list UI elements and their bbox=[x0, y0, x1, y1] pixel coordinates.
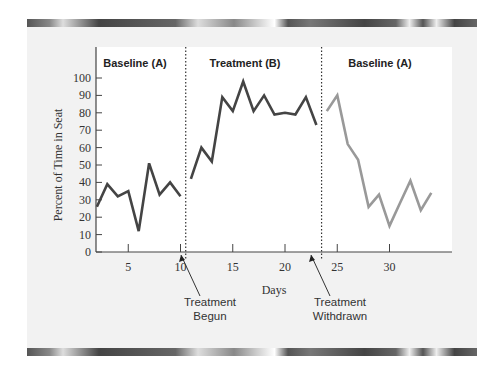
annotation-arrow bbox=[311, 255, 330, 296]
x-tick-label: 25 bbox=[331, 260, 343, 274]
x-tick-label: 5 bbox=[125, 260, 131, 274]
annotation-arrow bbox=[181, 255, 200, 296]
x-tick-label: 20 bbox=[279, 260, 291, 274]
y-tick-label: 90 bbox=[79, 88, 91, 102]
y-tick-label: 100 bbox=[73, 71, 91, 85]
annotation-text: Treatment bbox=[314, 296, 367, 308]
y-tick-label: 70 bbox=[79, 123, 91, 137]
x-tick-label: 15 bbox=[227, 260, 239, 274]
annotation-text: Treatment bbox=[184, 296, 237, 308]
phase-label: Treatment (B) bbox=[210, 57, 281, 69]
y-tick-label: 60 bbox=[79, 141, 91, 155]
y-tick-label: 0 bbox=[85, 245, 91, 259]
phase-label: Baseline (A) bbox=[103, 57, 167, 69]
y-tick-label: 80 bbox=[79, 106, 91, 120]
line-chart: 010203040506070809010051015202530Baselin… bbox=[0, 0, 500, 373]
x-axis-title: Days bbox=[262, 283, 287, 297]
y-tick-label: 10 bbox=[79, 228, 91, 242]
annotation-text: Withdrawn bbox=[313, 310, 367, 322]
y-tick-label: 40 bbox=[79, 175, 91, 189]
y-tick-label: 30 bbox=[79, 193, 91, 207]
y-tick-label: 20 bbox=[79, 210, 91, 224]
x-tick-label: 30 bbox=[384, 260, 396, 274]
y-tick-label: 50 bbox=[79, 158, 91, 172]
annotation-text: Begun bbox=[193, 310, 226, 322]
phase-label: Baseline (A) bbox=[348, 57, 412, 69]
y-axis-title: Percent of Time in Seat bbox=[51, 108, 65, 221]
plot-area bbox=[96, 47, 452, 252]
